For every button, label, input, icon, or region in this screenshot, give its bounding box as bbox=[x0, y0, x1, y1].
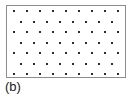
figure-panel: (b) bbox=[0, 0, 135, 99]
lattice-dot bbox=[65, 31, 67, 33]
lattice-dot bbox=[117, 31, 119, 33]
lattice-dot-field bbox=[7, 6, 125, 77]
lattice-dot bbox=[13, 31, 15, 33]
lattice-dot bbox=[52, 52, 54, 54]
lattice-dot bbox=[52, 73, 54, 75]
lattice-dot bbox=[72, 21, 74, 23]
lattice-dot bbox=[104, 31, 106, 33]
lattice-dot bbox=[91, 52, 93, 54]
lattice-dot bbox=[72, 63, 74, 65]
lattice-dot bbox=[98, 21, 100, 23]
lattice-dot bbox=[78, 31, 80, 33]
lattice-dot bbox=[98, 63, 100, 65]
lattice-dot bbox=[59, 21, 61, 23]
lattice-dot bbox=[46, 21, 48, 23]
lattice-dot bbox=[111, 42, 113, 44]
lattice-dot bbox=[65, 52, 67, 54]
lattice-dot bbox=[104, 10, 106, 12]
lattice-dot bbox=[117, 73, 119, 75]
lattice-boundary-box bbox=[6, 5, 126, 78]
lattice-dot bbox=[33, 63, 35, 65]
lattice-dot bbox=[39, 52, 41, 54]
lattice-dot bbox=[65, 73, 67, 75]
lattice-dot bbox=[39, 73, 41, 75]
lattice-dot bbox=[104, 73, 106, 75]
lattice-dot bbox=[46, 42, 48, 44]
lattice-dot bbox=[85, 21, 87, 23]
lattice-dot bbox=[104, 52, 106, 54]
lattice-dot bbox=[111, 63, 113, 65]
lattice-dot bbox=[98, 42, 100, 44]
lattice-dot bbox=[78, 73, 80, 75]
lattice-dot bbox=[59, 63, 61, 65]
lattice-dot bbox=[20, 21, 22, 23]
lattice-dot bbox=[39, 10, 41, 12]
lattice-dot bbox=[13, 10, 15, 12]
lattice-dot bbox=[52, 10, 54, 12]
lattice-dot bbox=[33, 42, 35, 44]
lattice-dot bbox=[117, 52, 119, 54]
lattice-dot bbox=[26, 52, 28, 54]
lattice-dot bbox=[78, 52, 80, 54]
lattice-dot bbox=[65, 10, 67, 12]
lattice-dot bbox=[59, 42, 61, 44]
lattice-dot bbox=[91, 31, 93, 33]
lattice-dot bbox=[13, 52, 15, 54]
lattice-dot bbox=[91, 10, 93, 12]
subfigure-label: (b) bbox=[5, 79, 21, 94]
lattice-dot bbox=[72, 42, 74, 44]
lattice-dot bbox=[52, 31, 54, 33]
lattice-dot bbox=[117, 10, 119, 12]
lattice-dot bbox=[26, 73, 28, 75]
lattice-dot bbox=[26, 31, 28, 33]
lattice-dot bbox=[13, 73, 15, 75]
lattice-dot bbox=[33, 21, 35, 23]
lattice-dot bbox=[26, 10, 28, 12]
lattice-dot bbox=[39, 31, 41, 33]
lattice-dot bbox=[111, 21, 113, 23]
lattice-dot bbox=[20, 63, 22, 65]
lattice-dot bbox=[91, 73, 93, 75]
lattice-dot bbox=[85, 63, 87, 65]
lattice-dot bbox=[78, 10, 80, 12]
lattice-dot bbox=[85, 42, 87, 44]
lattice-dot bbox=[46, 63, 48, 65]
lattice-dot bbox=[20, 42, 22, 44]
